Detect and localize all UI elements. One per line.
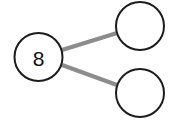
- node-child-bottom-circle[interactable]: [116, 69, 164, 117]
- node-layer: 8: [15, 2, 165, 117]
- diagram-canvas: 8: [0, 0, 172, 125]
- edge-root-to-top-node: [62, 33, 117, 50]
- node-child-bottom[interactable]: [116, 69, 164, 117]
- edge-root-to-bottom-node: [62, 65, 117, 85]
- node-link-diagram: 8: [0, 0, 172, 125]
- edge-layer: [62, 33, 117, 85]
- node-root-label: 8: [33, 47, 45, 70]
- node-root[interactable]: 8: [15, 33, 63, 81]
- node-child-top-circle[interactable]: [116, 2, 164, 50]
- node-child-top[interactable]: [116, 2, 164, 50]
